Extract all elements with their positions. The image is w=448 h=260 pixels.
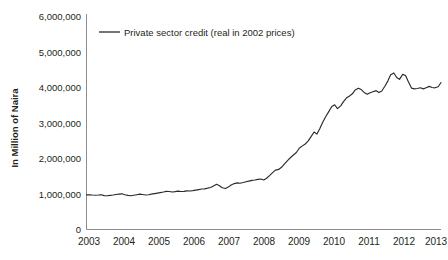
y-axis-title: In Million of Naira	[9, 88, 20, 168]
legend-label: Private sector credit (real in 2002 pric…	[124, 27, 295, 38]
chart-legend: Private sector credit (real in 2002 pric…	[99, 27, 295, 38]
x-tick-label: 2004	[113, 236, 136, 247]
x-tick-label: 2011	[358, 236, 380, 247]
x-tick-label: 2012	[393, 236, 416, 247]
x-tick-label: 2010	[323, 236, 346, 247]
y-tick-label: 5,000,000	[39, 47, 81, 58]
x-tick-label: 2008	[253, 236, 276, 247]
line-chart: In Million of Naira 6,000,000 5,000,000 …	[0, 0, 448, 260]
y-tick-label: 4,000,000	[39, 82, 81, 93]
x-tick-label: 2005	[148, 236, 171, 247]
chart-figure: In Million of Naira 6,000,000 5,000,000 …	[0, 0, 448, 260]
x-tick-label: 2003	[78, 236, 101, 247]
y-tick-label: 6,000,000	[39, 11, 81, 22]
x-tick-labels: 2003 2004 2005 2006 2007 2008 2009 2010 …	[78, 236, 448, 247]
chart-background	[0, 0, 448, 260]
y-tick-label: 3,000,000	[39, 118, 81, 129]
x-tick-label: 2006	[183, 236, 206, 247]
y-tick-label: 0	[76, 224, 81, 235]
x-tick-label: 2013	[425, 236, 448, 247]
y-tick-label: 2,000,000	[39, 153, 81, 164]
x-tick-label: 2009	[288, 236, 311, 247]
x-tick-label: 2007	[218, 236, 241, 247]
y-tick-label: 1,000,000	[39, 189, 81, 200]
